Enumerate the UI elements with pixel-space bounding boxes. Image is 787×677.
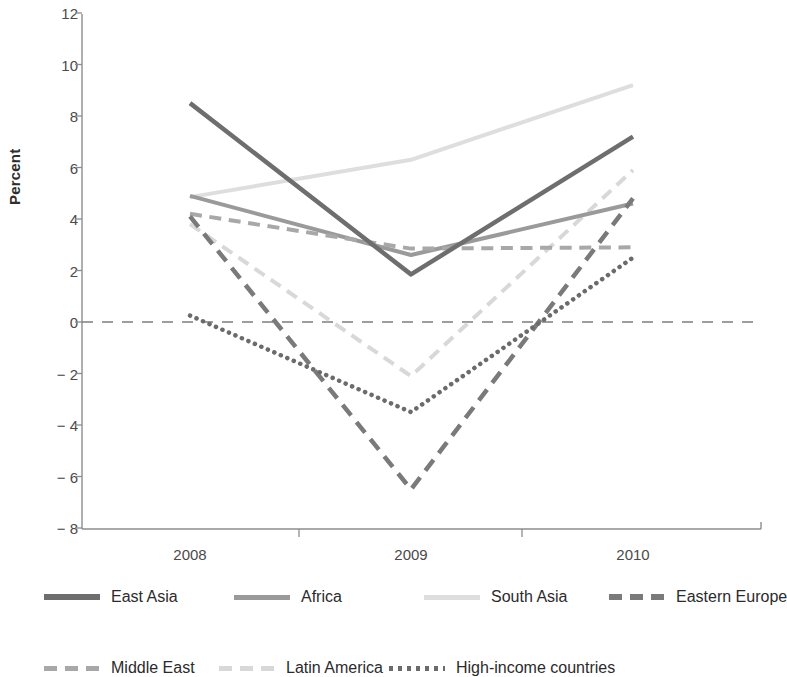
legend-item-africa[interactable]: Africa — [234, 588, 342, 606]
legend-row: Middle EastLatin AmericaHigh-income coun… — [44, 628, 774, 659]
legend-label: Middle East — [111, 659, 195, 677]
legend-item-eastern-europe[interactable]: Eastern Europe — [609, 588, 787, 606]
legend-swatch-icon — [234, 595, 290, 600]
y-axis-ticks — [75, 13, 82, 528]
legend-item-high-income-countries[interactable]: High-income countries — [389, 659, 615, 677]
legend-swatch-icon — [44, 594, 100, 600]
legend-label: High-income countries — [456, 659, 615, 677]
legend-label: Africa — [301, 588, 342, 606]
x-axis-ticks — [299, 529, 522, 537]
legend-label: East Asia — [111, 588, 178, 606]
x-tick-label-2008: 2008 — [173, 546, 206, 563]
legend-item-east-asia[interactable]: East Asia — [44, 588, 178, 606]
chart-legend: East AsiaAfricaSouth AsiaEastern EuropeM… — [44, 588, 774, 668]
legend-item-south-asia[interactable]: South Asia — [424, 588, 568, 606]
legend-label: Latin America — [286, 659, 383, 677]
legend-swatch-icon — [219, 666, 275, 671]
series-line — [190, 258, 633, 413]
legend-swatch-icon — [609, 594, 665, 600]
legend-swatch-icon — [44, 666, 100, 671]
legend-swatch-icon — [389, 666, 445, 671]
plot-area — [0, 0, 779, 560]
axis-lines — [82, 14, 761, 529]
x-tick-label-2010: 2010 — [616, 546, 649, 563]
legend-row: East AsiaAfricaSouth AsiaEastern Europe — [44, 588, 774, 619]
legend-label: South Asia — [491, 588, 568, 606]
legend-item-middle-east[interactable]: Middle East — [44, 659, 195, 677]
legend-label: Eastern Europe — [676, 588, 787, 606]
legend-item-latin-america[interactable]: Latin America — [219, 659, 383, 677]
x-tick-label-2009: 2009 — [394, 546, 427, 563]
legend-swatch-icon — [424, 595, 480, 600]
